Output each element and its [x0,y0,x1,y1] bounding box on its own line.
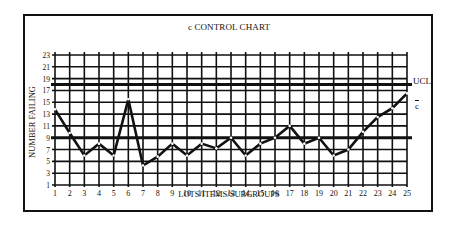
center-line-label: c [415,101,419,111]
data-point [127,98,130,101]
data-point [68,132,71,135]
y-tick-label: 7 [46,146,50,155]
data-point [112,154,115,157]
y-tick-label: 15 [43,98,51,107]
data-point [274,136,277,139]
ucl-label: UCL [413,76,431,86]
data-point [200,142,203,145]
y-tick-label: 21 [43,63,51,72]
data-point [318,136,321,139]
data-point [156,155,159,158]
data-point [259,142,262,145]
data-point [391,107,394,110]
data-point [288,125,291,128]
chart-title: c CONTROL CHART [0,22,458,32]
y-tick-label: 11 [43,122,50,131]
y-tick-label: 13 [43,110,51,119]
data-point [215,147,218,150]
y-tick-label: 19 [43,75,51,84]
data-point [171,142,174,145]
data-point [376,116,379,119]
data-point [142,164,145,167]
data-point [98,142,101,145]
y-tick-label: 3 [46,169,50,178]
data-point [347,148,350,151]
x-axis-label: LOTS/ITEMS/SUBGROUPS [0,189,458,199]
y-tick-label: 9 [46,134,50,143]
y-tick-label: 5 [46,157,50,166]
y-tick-label: 17 [43,86,51,95]
data-point [54,108,57,111]
y-tick-label: 23 [43,51,51,60]
data-point [362,131,365,134]
y-axis-label: NUMBER FAILING [27,86,37,158]
data-point [303,142,306,145]
data-point [244,154,247,157]
data-point [332,154,335,157]
data-point [230,136,233,139]
data-point [83,154,86,157]
data-point [186,154,189,157]
data-point [406,92,409,95]
